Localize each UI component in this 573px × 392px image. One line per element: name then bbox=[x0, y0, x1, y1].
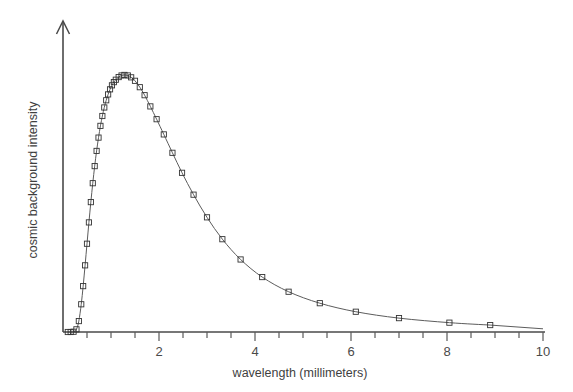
data-point-marker bbox=[179, 170, 184, 175]
y-axis-title: cosmic background intensity bbox=[26, 101, 40, 259]
chart-figure: 246810 wavelength (millimeters) cosmic b… bbox=[0, 0, 573, 392]
data-curve bbox=[68, 75, 543, 332]
data-point-marker bbox=[137, 85, 142, 90]
data-point-marker bbox=[76, 318, 81, 323]
data-point-markers bbox=[65, 72, 493, 334]
data-point-marker bbox=[132, 78, 137, 83]
data-point-marker bbox=[260, 274, 265, 279]
data-point-marker bbox=[286, 289, 291, 294]
x-tick-label: 2 bbox=[155, 344, 162, 359]
cmb-spectrum-plot: 246810 wavelength (millimeters) cosmic b… bbox=[0, 0, 573, 392]
data-point-marker bbox=[104, 98, 109, 103]
x-tick-label: 10 bbox=[536, 344, 550, 359]
data-point-marker bbox=[92, 164, 97, 169]
data-point-marker bbox=[86, 220, 91, 225]
data-point-marker bbox=[238, 257, 243, 262]
data-point-marker bbox=[170, 150, 175, 155]
data-point-marker bbox=[447, 320, 452, 325]
x-tick-label: 6 bbox=[347, 344, 354, 359]
x-axis-title: wavelength (millimeters) bbox=[232, 366, 368, 380]
data-point-marker bbox=[88, 200, 93, 205]
x-tick-label: 4 bbox=[251, 344, 258, 359]
data-point-marker bbox=[161, 132, 166, 137]
data-point-marker bbox=[353, 309, 358, 314]
data-point-marker bbox=[84, 241, 89, 246]
x-axis-tick-labels: 246810 bbox=[155, 344, 550, 359]
data-point-marker bbox=[100, 113, 105, 118]
data-point-marker bbox=[191, 192, 196, 197]
data-point-marker bbox=[154, 117, 159, 122]
data-point-marker bbox=[94, 148, 99, 153]
data-point-marker bbox=[79, 302, 84, 307]
data-point-marker bbox=[98, 123, 103, 128]
x-axis-ticks bbox=[87, 332, 543, 341]
data-point-marker bbox=[90, 181, 95, 186]
data-point-marker bbox=[102, 105, 107, 110]
y-axis bbox=[57, 21, 70, 332]
data-point-marker bbox=[488, 322, 493, 327]
data-point-marker bbox=[82, 263, 87, 268]
data-point-marker bbox=[96, 135, 101, 140]
data-point-marker bbox=[317, 301, 322, 306]
data-point-marker bbox=[148, 104, 153, 109]
data-point-marker bbox=[74, 327, 79, 332]
data-point-marker bbox=[142, 93, 147, 98]
data-point-marker bbox=[204, 215, 209, 220]
x-tick-label: 8 bbox=[443, 344, 450, 359]
data-point-marker bbox=[220, 237, 225, 242]
data-point-marker bbox=[106, 92, 111, 97]
data-point-marker bbox=[81, 284, 86, 289]
data-point-marker bbox=[396, 316, 401, 321]
